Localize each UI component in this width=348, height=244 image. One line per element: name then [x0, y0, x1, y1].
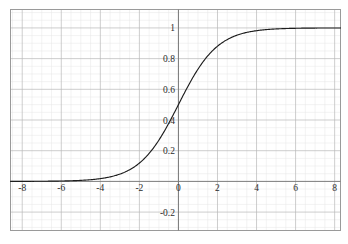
- x-tick-label: 0: [176, 183, 181, 193]
- y-tick-label: 0.4: [163, 116, 175, 126]
- sigmoid-plot: -8-6-4-202468 10.80.60.40.2-0.2: [0, 0, 348, 244]
- y-tick-label: -0.2: [160, 208, 175, 218]
- x-tick-label: 4: [254, 183, 259, 193]
- x-tick-label: -8: [18, 183, 26, 193]
- x-tick-label: 6: [293, 183, 298, 193]
- x-tick-label: -6: [57, 183, 65, 193]
- x-tick-label: 2: [215, 183, 220, 193]
- y-tick-label: 0.6: [163, 85, 175, 95]
- y-tick-label: 1: [170, 23, 175, 33]
- x-tick-label: 8: [332, 183, 337, 193]
- x-tick-label: -4: [96, 183, 104, 193]
- chart-canvas: -8-6-4-202468 10.80.60.40.2-0.2: [0, 0, 348, 244]
- y-tick-label: 0.2: [163, 146, 175, 156]
- y-tick-label: 0.8: [163, 54, 175, 64]
- x-tick-label: -2: [135, 183, 143, 193]
